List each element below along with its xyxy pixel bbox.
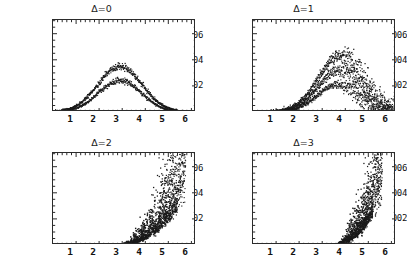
panel-delta-0: Δ=0 0.006 0.004 0.002 1 2 3 4 5 6 <box>0 0 203 130</box>
plot-canvas-delta-0 <box>53 20 195 111</box>
x-tick-label-5: 5 <box>155 246 169 257</box>
x-tick-label-1: 1 <box>263 113 277 124</box>
plot-area-delta-1 <box>252 19 395 111</box>
panel-title-delta-0: Δ=0 <box>0 3 203 14</box>
plot-area-delta-2 <box>52 152 195 244</box>
x-tick-label-2: 2 <box>286 113 300 124</box>
plot-canvas-delta-2 <box>53 153 195 244</box>
x-tick-label-4: 4 <box>332 113 346 124</box>
x-tick-label-1: 1 <box>63 113 77 124</box>
plot-canvas-delta-1 <box>253 20 395 111</box>
x-tick-label-4: 4 <box>132 246 146 257</box>
x-tick-label-6: 6 <box>378 113 392 124</box>
panel-title-delta-1: Δ=1 <box>200 3 407 14</box>
x-tick-label-2: 2 <box>286 246 300 257</box>
x-tick-label-1: 1 <box>63 246 77 257</box>
x-tick-label-5: 5 <box>155 113 169 124</box>
x-tick-label-6: 6 <box>178 113 192 124</box>
panel-title-delta-2: Δ=2 <box>0 137 203 148</box>
figure-panel-grid: Δ=0 0.006 0.004 0.002 1 2 3 4 5 6 Δ=1 0.… <box>0 0 407 268</box>
plot-area-delta-0 <box>52 19 195 111</box>
plot-area-delta-3 <box>252 152 395 244</box>
x-tick-label-4: 4 <box>332 246 346 257</box>
x-tick-label-3: 3 <box>309 113 323 124</box>
x-tick-label-2: 2 <box>86 113 100 124</box>
x-tick-label-6: 6 <box>178 246 192 257</box>
x-tick-label-3: 3 <box>109 246 123 257</box>
panel-title-delta-3: Δ=3 <box>200 137 407 148</box>
figure-caption <box>0 262 407 268</box>
x-tick-label-5: 5 <box>355 113 369 124</box>
panel-delta-3: Δ=3 0.006 0.004 0.002 1 2 3 4 5 6 <box>200 133 407 263</box>
panel-delta-2: Δ=2 0.006 0.004 0.002 1 2 3 4 5 6 <box>0 133 203 263</box>
x-tick-label-3: 3 <box>309 246 323 257</box>
x-tick-label-5: 5 <box>355 246 369 257</box>
panel-delta-1: Δ=1 0.006 0.004 0.002 1 2 3 4 5 6 <box>200 0 407 130</box>
x-tick-label-3: 3 <box>109 113 123 124</box>
x-tick-label-2: 2 <box>86 246 100 257</box>
x-tick-label-4: 4 <box>132 113 146 124</box>
x-tick-label-1: 1 <box>263 246 277 257</box>
plot-canvas-delta-3 <box>253 153 395 244</box>
x-tick-label-6: 6 <box>378 246 392 257</box>
